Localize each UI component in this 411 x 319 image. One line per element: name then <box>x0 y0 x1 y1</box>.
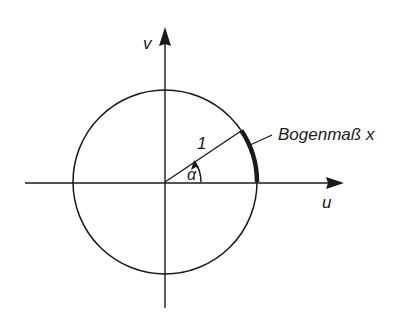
arc-label: Bogenmaß x <box>278 125 375 144</box>
arc-length-highlight <box>241 131 257 182</box>
u-axis-label: u <box>322 193 332 212</box>
v-axis-label: v <box>143 34 153 53</box>
u-axis-arrow-icon <box>326 177 344 189</box>
unit-circle-diagram: v u 1 α Bogenmaß x <box>0 0 411 319</box>
angle-label: α <box>187 166 197 183</box>
v-axis-arrow-icon <box>159 27 171 46</box>
radius-label: 1 <box>197 134 206 153</box>
label-leader-line <box>250 135 272 145</box>
